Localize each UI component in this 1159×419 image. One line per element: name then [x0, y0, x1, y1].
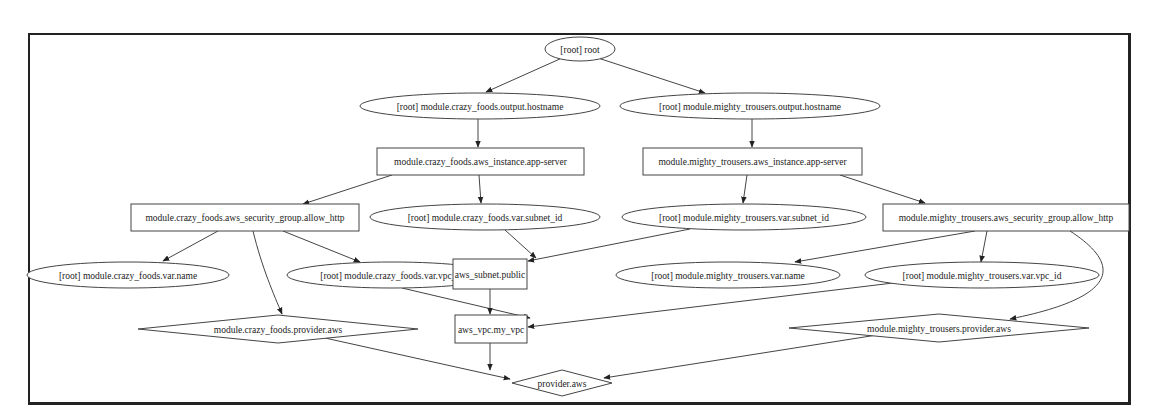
- node-label: [root] module.mighty_trousers.var.name: [651, 271, 805, 281]
- node-label: module.mighty_trousers.aws_security_grou…: [899, 213, 1114, 223]
- node-root[interactable]: [root] root: [545, 37, 615, 61]
- node-label: [root] module.crazy_foods.output.hostnam…: [397, 102, 564, 112]
- node-mt_subnet_id[interactable]: [root] module.mighty_trousers.var.subnet…: [622, 204, 866, 230]
- edge-cf_sg-to-cf_vpc_id: [283, 231, 360, 262]
- edge-cf_sg-to-cf_name: [163, 231, 218, 261]
- node-label: [root] module.crazy_foods.var.vpc_id: [320, 271, 464, 281]
- node-cf_instance[interactable]: module.crazy_foods.aws_instance.app-serv…: [377, 148, 584, 175]
- node-label: module.mighty_trousers.provider.aws: [867, 324, 1011, 334]
- node-cf_output[interactable]: [root] module.crazy_foods.output.hostnam…: [360, 93, 600, 119]
- edge-root-to-cf_output: [486, 58, 562, 92]
- node-cf_provider[interactable]: module.crazy_foods.provider.aws: [138, 315, 418, 343]
- node-vpc[interactable]: aws_vpc.my_vpc: [455, 315, 527, 343]
- node-label: [root] module.mighty_trousers.var.subnet…: [659, 213, 829, 223]
- edge-cf_sg-to-cf_provider: [253, 231, 282, 314]
- node-label: module.crazy_foods.provider.aws: [214, 325, 343, 335]
- edge-mt_instance-to-mt_sg: [840, 175, 925, 203]
- node-label: aws_vpc.my_vpc: [458, 325, 524, 335]
- edge-mt_provider-to-provider_aws: [604, 335, 877, 378]
- dependency-graph: [root] root[root] module.crazy_foods.out…: [0, 0, 1159, 419]
- node-label: aws_subnet.public: [455, 270, 525, 280]
- node-label: provider.aws: [538, 379, 587, 389]
- node-cf_name[interactable]: [root] module.crazy_foods.var.name: [27, 262, 229, 288]
- edge-cf_instance-to-cf_subnet_id: [479, 175, 481, 203]
- edge-cf_subnet_id-to-subnet_public: [505, 230, 536, 258]
- node-mt_vpc_id[interactable]: [root] module.mighty_trousers.var.vpc_id: [865, 262, 1099, 288]
- nodes-layer: [root] root[root] module.crazy_foods.out…: [27, 37, 1129, 396]
- node-mt_provider[interactable]: module.mighty_trousers.provider.aws: [789, 314, 1089, 342]
- node-cf_subnet_id[interactable]: [root] module.crazy_foods.var.subnet_id: [370, 204, 600, 230]
- node-mt_output[interactable]: [root] module.mighty_trousers.output.hos…: [620, 93, 880, 119]
- node-cf_sg[interactable]: module.crazy_foods.aws_security_group.al…: [131, 204, 359, 231]
- node-mt_sg[interactable]: module.mighty_trousers.aws_security_grou…: [883, 204, 1129, 231]
- edge-mt_instance-to-mt_subnet_id: [743, 175, 747, 203]
- edge-cf_vpc_id-to-vpc: [402, 288, 530, 318]
- node-label: module.mighty_trousers.aws_instance.app-…: [658, 157, 847, 167]
- node-label: [root] module.crazy_foods.var.name: [59, 271, 197, 281]
- edge-root-to-mt_output: [598, 58, 705, 93]
- node-label: [root] root: [560, 45, 600, 55]
- edge-mt_subnet_id-to-subnet_public: [528, 229, 690, 261]
- node-provider_aws[interactable]: provider.aws: [512, 370, 612, 396]
- node-label: module.crazy_foods.aws_security_group.al…: [145, 213, 344, 223]
- node-subnet_public[interactable]: aws_subnet.public: [453, 259, 527, 289]
- node-mt_instance[interactable]: module.mighty_trousers.aws_instance.app-…: [643, 148, 862, 175]
- node-mt_name[interactable]: [root] module.mighty_trousers.var.name: [616, 262, 840, 288]
- node-label: [root] module.mighty_trousers.output.hos…: [659, 102, 841, 112]
- node-label: [root] module.crazy_foods.var.subnet_id: [408, 213, 563, 223]
- edge-mt_sg-to-mt_name: [795, 231, 975, 262]
- edge-cf_provider-to-provider_aws: [325, 338, 510, 379]
- node-label: [root] module.mighty_trousers.var.vpc_id: [903, 271, 1062, 281]
- edge-cf_instance-to-cf_sg: [303, 175, 392, 204]
- edge-mt_sg-to-mt_vpc_id: [981, 231, 987, 262]
- node-label: module.crazy_foods.aws_instance.app-serv…: [394, 157, 568, 167]
- edge-mt_vpc_id-to-vpc: [528, 283, 893, 327]
